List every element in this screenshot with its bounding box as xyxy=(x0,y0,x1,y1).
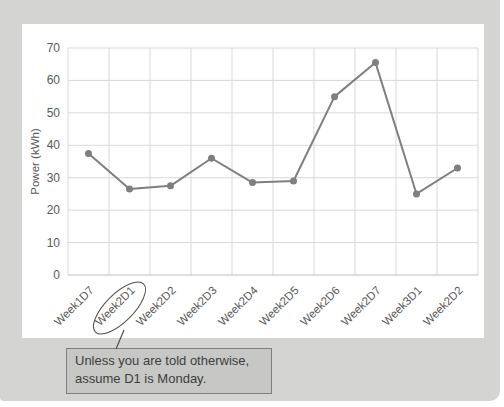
x-tick-label: Week2D2 xyxy=(421,284,465,328)
x-tick-label: Week2D4 xyxy=(216,284,260,328)
x-tick-label: Week2D6 xyxy=(298,284,342,328)
y-tick-label: 0 xyxy=(53,268,60,282)
screenshot-stage: 010203040506070Power (kWh)Week1D7Week2D1… xyxy=(0,0,504,407)
x-tick-label: Week2D2 xyxy=(134,284,178,328)
data-point-marker xyxy=(372,59,379,66)
callout-note: Unless you are told otherwise, assume D1… xyxy=(66,348,272,394)
y-axis-title: Power (kWh) xyxy=(29,128,41,195)
x-tick-label: Week2D5 xyxy=(257,284,301,328)
x-tick-label: Week2D1 xyxy=(93,284,137,328)
x-tick-label: Week1D7 xyxy=(52,284,96,328)
y-tick-label: 50 xyxy=(47,106,61,120)
data-point-marker xyxy=(331,93,338,100)
y-tick-label: 30 xyxy=(47,171,61,185)
y-tick-label: 60 xyxy=(47,73,61,87)
y-tick-label: 40 xyxy=(47,138,61,152)
data-point-marker xyxy=(454,164,461,171)
data-point-marker xyxy=(208,155,215,162)
y-tick-label: 10 xyxy=(47,236,61,250)
data-point-marker xyxy=(413,190,420,197)
line-chart: 010203040506070Power (kWh)Week1D7Week2D1… xyxy=(22,24,484,338)
callout-text-line1: Unless you are told otherwise, xyxy=(75,352,263,370)
y-tick-label: 70 xyxy=(47,41,61,55)
x-tick-label: Week2D3 xyxy=(175,284,219,328)
chart-card: 010203040506070Power (kWh)Week1D7Week2D1… xyxy=(22,24,484,338)
data-point-marker xyxy=(85,150,92,157)
callout-text-line2: assume D1 is Monday. xyxy=(75,370,263,388)
data-point-marker xyxy=(126,186,133,193)
x-tick-label: Week3D1 xyxy=(380,284,424,328)
data-point-marker xyxy=(290,177,297,184)
x-tick-label: Week2D7 xyxy=(339,284,383,328)
data-point-marker xyxy=(249,179,256,186)
data-point-marker xyxy=(167,182,174,189)
y-tick-label: 20 xyxy=(47,203,61,217)
